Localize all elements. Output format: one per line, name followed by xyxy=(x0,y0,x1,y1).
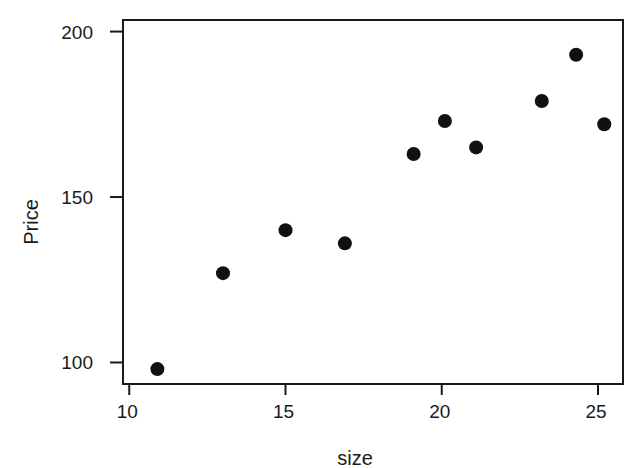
data-point xyxy=(438,114,452,128)
x-axis-title: size xyxy=(337,447,373,468)
data-point xyxy=(216,266,230,280)
data-point xyxy=(469,140,483,154)
y-axis: 100150200 xyxy=(61,22,123,374)
y-tick-label: 100 xyxy=(61,352,93,373)
y-axis-title: Price xyxy=(20,199,42,245)
plot-area xyxy=(123,20,623,384)
data-point xyxy=(535,94,549,108)
data-point xyxy=(407,147,421,161)
x-axis: 10152025 xyxy=(117,384,607,422)
data-point xyxy=(279,223,293,237)
data-point xyxy=(569,48,583,62)
data-point xyxy=(338,236,352,250)
x-tick-label: 25 xyxy=(585,401,606,422)
x-tick-label: 15 xyxy=(273,401,294,422)
data-point xyxy=(150,362,164,376)
scatter-chart: 10152025 100150200 size Price xyxy=(0,0,639,468)
data-points xyxy=(150,48,611,376)
x-tick-label: 10 xyxy=(117,401,138,422)
y-tick-label: 200 xyxy=(61,22,93,43)
data-point xyxy=(597,117,611,131)
y-tick-label: 150 xyxy=(61,187,93,208)
plot-frame xyxy=(123,20,623,384)
x-tick-label: 20 xyxy=(429,401,450,422)
